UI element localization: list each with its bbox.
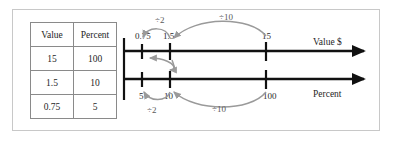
percent-tick-label-10: 10 <box>164 91 174 101</box>
op-label-percent-divide-2: ÷2 <box>147 105 156 115</box>
percent-tick-label-5: 5 <box>139 91 144 101</box>
arc-value-divide-10 <box>174 21 266 38</box>
op-label-percent-divide-10: ÷10 <box>212 104 226 114</box>
value-axis-label: Value $ <box>313 37 342 47</box>
double-number-line-figure: Value Percent 15 100 1.5 10 0.75 5 <box>0 0 394 143</box>
percent-axis-label: Percent <box>313 89 342 99</box>
number-line-diagram: 0.75 1.5 15 Value $ 5 10 100 Percent ÷2 … <box>0 0 394 143</box>
op-label-value-divide-10: ÷10 <box>219 12 233 22</box>
op-label-value-divide-2: ÷2 <box>155 15 164 25</box>
